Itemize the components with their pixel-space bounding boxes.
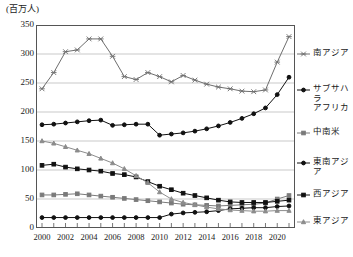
data-point-marker bbox=[52, 193, 56, 197]
legend-item[interactable]: 南アジア bbox=[297, 48, 349, 59]
legend-label: 東南アジア bbox=[313, 157, 353, 176]
data-point-marker bbox=[146, 216, 150, 220]
data-point-marker bbox=[287, 198, 291, 202]
chart-container: (百万人) 050100150200250300350 200020022004… bbox=[0, 0, 353, 257]
data-point-marker bbox=[40, 193, 44, 197]
data-point-marker bbox=[302, 193, 306, 197]
legend-label: 中南米 bbox=[313, 127, 340, 137]
data-point-marker bbox=[87, 168, 91, 172]
data-point-marker bbox=[87, 193, 91, 197]
data-point-marker bbox=[170, 188, 174, 192]
plot-border bbox=[37, 26, 295, 228]
data-point-marker bbox=[302, 131, 306, 135]
legend-item[interactable]: 西アジア bbox=[297, 189, 349, 200]
data-point-marker bbox=[99, 216, 103, 220]
data-point-marker bbox=[52, 216, 56, 220]
square-marker bbox=[297, 128, 311, 138]
y-tick-label: 200 bbox=[4, 106, 34, 116]
data-point-marker bbox=[287, 75, 291, 79]
data-point-marker bbox=[193, 194, 197, 198]
y-axis-unit-label: (百万人) bbox=[6, 2, 39, 15]
data-point-marker bbox=[158, 133, 162, 137]
data-point-marker bbox=[217, 198, 221, 202]
legend-label: サブサハラ アフリカ bbox=[313, 84, 353, 113]
legend-label: 西アジア bbox=[313, 189, 349, 199]
data-point-marker bbox=[228, 200, 232, 204]
data-point-marker bbox=[111, 123, 115, 127]
data-point-marker bbox=[87, 216, 91, 220]
data-point-marker bbox=[134, 216, 138, 220]
data-point-marker bbox=[87, 119, 91, 123]
data-point-marker bbox=[181, 191, 185, 195]
data-point-marker bbox=[301, 52, 307, 57]
y-tick-label: 350 bbox=[4, 19, 34, 29]
data-point-marker bbox=[75, 120, 79, 124]
y-tick-label: 300 bbox=[4, 48, 34, 58]
legend-item[interactable]: 中南米 bbox=[297, 127, 340, 138]
data-point-marker bbox=[99, 194, 103, 198]
data-point-marker bbox=[240, 201, 244, 205]
data-point-marker bbox=[64, 216, 68, 220]
legend-item[interactable]: 東南アジア bbox=[297, 157, 353, 176]
y-axis: 050100150200250300350 bbox=[0, 25, 34, 228]
data-point-marker bbox=[169, 132, 173, 136]
data-point-marker bbox=[181, 131, 185, 135]
data-point-marker bbox=[64, 121, 68, 125]
data-point-marker bbox=[205, 196, 209, 200]
data-point-marker bbox=[111, 195, 115, 199]
data-point-marker bbox=[122, 216, 126, 220]
legend-item[interactable]: サブサハラ アフリカ bbox=[297, 84, 353, 113]
legend: 南アジアサブサハラ アフリカ中南米東南アジア西アジア東アジア bbox=[297, 26, 353, 231]
circle-marker bbox=[297, 158, 311, 168]
y-tick-label: 0 bbox=[4, 222, 34, 232]
data-point-marker bbox=[252, 201, 256, 205]
data-point-marker bbox=[123, 173, 127, 177]
data-point-marker bbox=[228, 121, 232, 125]
data-point-marker bbox=[193, 210, 197, 214]
data-point-marker bbox=[134, 122, 138, 126]
data-point-marker bbox=[302, 161, 306, 165]
plot-area bbox=[36, 25, 295, 228]
data-point-marker bbox=[122, 123, 126, 127]
data-point-marker bbox=[64, 165, 68, 169]
data-point-marker bbox=[158, 200, 162, 204]
data-point-marker bbox=[193, 129, 197, 133]
legend-item[interactable]: 東アジア bbox=[297, 216, 349, 227]
data-point-marker bbox=[252, 112, 256, 116]
x-axis: 2000200220042006200820102012201420162018… bbox=[36, 231, 295, 251]
data-point-marker bbox=[302, 88, 306, 92]
data-point-marker bbox=[40, 123, 44, 127]
y-tick-label: 150 bbox=[4, 135, 34, 145]
data-point-marker bbox=[52, 162, 56, 166]
legend-label: 東アジア bbox=[313, 216, 349, 226]
data-point-marker bbox=[111, 216, 115, 220]
data-point-marker bbox=[264, 201, 268, 205]
square-filled-marker bbox=[297, 190, 311, 200]
data-point-marker bbox=[169, 212, 173, 216]
data-point-marker bbox=[123, 197, 127, 201]
data-point-marker bbox=[64, 193, 68, 197]
data-point-marker bbox=[134, 198, 138, 202]
data-point-marker bbox=[217, 124, 221, 128]
data-point-marker bbox=[99, 118, 103, 122]
data-point-marker bbox=[146, 122, 150, 126]
data-point-marker bbox=[301, 220, 305, 224]
x-tick-label: 2020 bbox=[260, 232, 294, 242]
data-point-marker bbox=[158, 184, 162, 188]
y-tick-label: 250 bbox=[4, 77, 34, 87]
y-tick-label: 100 bbox=[4, 164, 34, 174]
data-point-marker bbox=[287, 194, 291, 198]
data-point-marker bbox=[52, 122, 56, 126]
data-point-marker bbox=[40, 164, 44, 168]
data-point-marker bbox=[158, 216, 162, 220]
legend-label: 南アジア bbox=[313, 48, 349, 58]
data-point-marker bbox=[170, 201, 174, 205]
data-point-marker bbox=[75, 216, 79, 220]
data-point-marker bbox=[275, 93, 279, 97]
data-point-marker bbox=[75, 192, 79, 196]
data-point-marker bbox=[146, 199, 150, 203]
data-point-marker bbox=[111, 172, 115, 176]
y-tick-label: 50 bbox=[4, 193, 34, 203]
line-chart-svg bbox=[36, 25, 295, 228]
data-point-marker bbox=[181, 211, 185, 215]
